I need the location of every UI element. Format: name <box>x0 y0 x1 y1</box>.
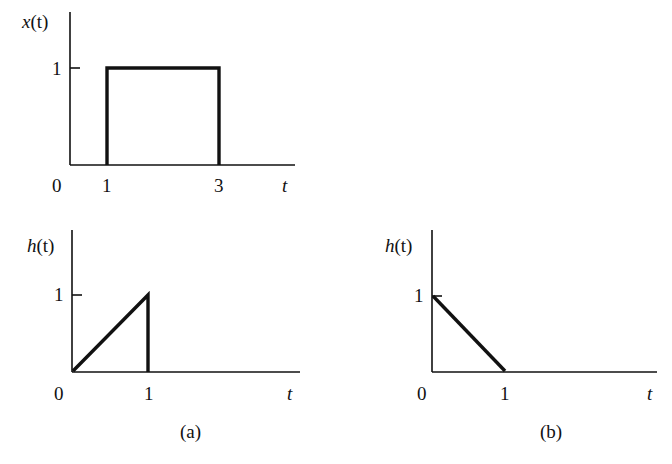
x-tick-label-1: 1 <box>144 383 154 404</box>
x-tick-label-0: 0 <box>52 175 62 196</box>
y-tick-label-1: 1 <box>414 285 424 306</box>
y-label: h(t) <box>27 235 54 257</box>
x-tick-label-3: 3 <box>214 175 224 196</box>
signal-rect-pulse <box>107 68 219 165</box>
plot-x-of-t: x(t) 1 0 1 3 t <box>21 11 295 196</box>
figure: x(t) 1 0 1 3 t h(t) 1 0 1 t (a) h(t) 1 0… <box>0 0 672 464</box>
x-tick-label-0: 0 <box>417 383 427 404</box>
y-label: h(t) <box>385 235 412 257</box>
plot-h-of-t-a: h(t) 1 0 1 t (a) <box>27 230 300 443</box>
x-tick-label-0: 0 <box>54 383 64 404</box>
y-tick-label-1: 1 <box>54 284 64 305</box>
caption-b: (b) <box>540 421 562 443</box>
caption-a: (a) <box>180 421 201 443</box>
signal-ramp <box>73 295 148 372</box>
x-axis-label-t: t <box>647 383 653 404</box>
y-tick-label-1: 1 <box>52 58 62 79</box>
plot-h-of-t-b: h(t) 1 0 1 t (b) <box>385 230 657 443</box>
y-label: x(t) <box>21 11 48 33</box>
x-axis-label-t: t <box>282 175 288 196</box>
signal-decreasing-ramp <box>433 296 505 371</box>
x-axis-label-t: t <box>287 383 293 404</box>
x-tick-label-1: 1 <box>500 383 510 404</box>
x-tick-label-1: 1 <box>102 175 112 196</box>
